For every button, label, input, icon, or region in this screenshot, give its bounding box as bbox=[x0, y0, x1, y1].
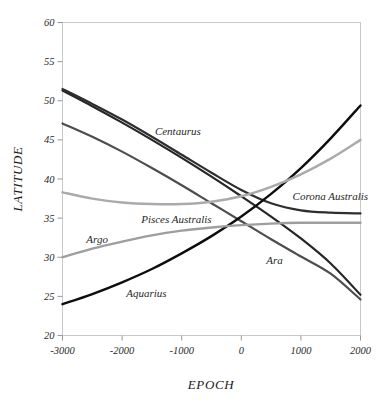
chart-figure: 202530354045505560 -3000-2000-1000010002… bbox=[0, 0, 385, 404]
y-tick-label: 35 bbox=[43, 213, 55, 224]
y-tick-label: 20 bbox=[44, 330, 55, 341]
x-tick-label: -1000 bbox=[169, 345, 194, 356]
x-tick-label: 0 bbox=[239, 345, 245, 356]
y-axis-title: LATITUDE bbox=[10, 147, 25, 213]
x-axis-title: EPOCH bbox=[187, 377, 234, 392]
x-tick-label: 1000 bbox=[290, 345, 312, 356]
y-tick-label: 50 bbox=[44, 95, 55, 106]
y-tick-label: 30 bbox=[43, 252, 55, 263]
y-tick-label: 55 bbox=[44, 56, 55, 67]
y-tick-label: 25 bbox=[44, 291, 55, 302]
series-label-ara: Ara bbox=[265, 254, 283, 266]
series-label-centaurus: Centaurus bbox=[155, 125, 201, 137]
y-tick-label: 45 bbox=[44, 134, 55, 145]
series-label-pisces-australis: Pisces Australis bbox=[140, 213, 211, 225]
y-tick-label: 60 bbox=[44, 17, 55, 28]
series-label-argo: Argo bbox=[85, 233, 108, 245]
y-tick-label: 40 bbox=[44, 174, 55, 185]
x-tick-label: -3000 bbox=[50, 345, 75, 356]
x-tick-label: 2000 bbox=[350, 345, 372, 356]
series-label-aquarius: Aquarius bbox=[125, 287, 166, 299]
x-tick-label: -2000 bbox=[110, 345, 135, 356]
latitude-vs-epoch-line-chart: 202530354045505560 -3000-2000-1000010002… bbox=[0, 0, 385, 404]
series-label-corona-australis: Corona Australis bbox=[293, 190, 369, 202]
y-axis-tick-labels: 202530354045505560 bbox=[43, 17, 55, 341]
